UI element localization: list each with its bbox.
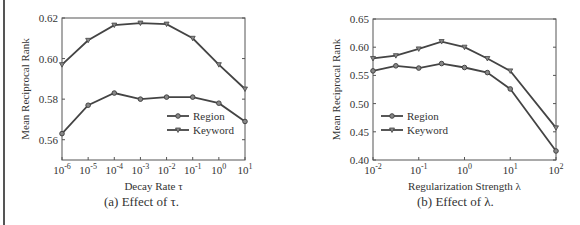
svg-text:10-5: 10-5 (79, 162, 97, 176)
svg-text:10-6: 10-6 (53, 162, 71, 176)
svg-text:0.58: 0.58 (39, 93, 59, 105)
svg-text:0.50: 0.50 (350, 98, 370, 110)
svg-text:100: 100 (457, 162, 472, 176)
chart-a: 0.560.580.600.6210-610-510-410-310-210-1… (19, 12, 253, 192)
legend-region: Region (193, 110, 225, 122)
chart-b: 0.400.450.500.550.600.6510-210-110010110… (330, 13, 564, 192)
svg-text:100: 100 (211, 162, 226, 176)
svg-text:10-1: 10-1 (410, 162, 428, 176)
svg-text:10-2: 10-2 (158, 162, 176, 176)
legend-region: Region (407, 110, 439, 122)
svg-text:101: 101 (503, 162, 518, 176)
svg-text:101: 101 (238, 162, 253, 176)
charts-canvas: 0.560.580.600.6210-610-510-410-310-210-1… (0, 0, 580, 225)
svg-text:Mean Reciprocal Rank: Mean Reciprocal Rank (19, 38, 31, 140)
svg-text:10-3: 10-3 (132, 162, 150, 176)
svg-text:0.65: 0.65 (350, 13, 370, 25)
svg-text:0.45: 0.45 (350, 126, 370, 138)
svg-text:10-1: 10-1 (184, 162, 202, 176)
series-line-keyword (62, 23, 245, 89)
svg-text:0.55: 0.55 (350, 69, 370, 81)
svg-text:0.60: 0.60 (39, 53, 59, 65)
svg-text:10-4: 10-4 (105, 162, 123, 176)
svg-text:0.56: 0.56 (39, 134, 59, 146)
svg-text:Mean Reciprocal Rank: Mean Reciprocal Rank (330, 38, 342, 140)
svg-text:Regularization Strength λ: Regularization Strength λ (408, 180, 522, 192)
series-line-region (373, 64, 556, 151)
svg-text:0.62: 0.62 (39, 12, 58, 24)
legend-keyword: Keyword (193, 124, 234, 136)
svg-text:Decay Rate τ: Decay Rate τ (124, 180, 183, 192)
caption-b: (b) Effect of λ. (417, 194, 494, 210)
legend-keyword: Keyword (407, 124, 448, 136)
caption-a: (a) Effect of τ. (104, 194, 179, 210)
svg-text:102: 102 (549, 162, 564, 176)
svg-text:0.60: 0.60 (350, 41, 370, 53)
svg-text:10-2: 10-2 (364, 162, 382, 176)
